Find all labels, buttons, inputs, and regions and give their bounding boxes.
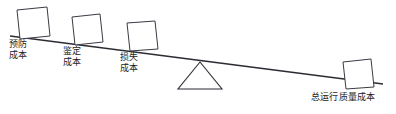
weight-box-appraisal	[72, 14, 103, 45]
weight-box-prevention	[17, 7, 50, 39]
label-total-operating-quality-cost: 总运行质量成本	[311, 92, 375, 103]
label-prevention-cost: 预防 成本	[9, 39, 27, 61]
triangular-fulcrum	[178, 62, 222, 89]
label-appraisal-cost: 鉴定 成本	[63, 46, 81, 68]
label-failure-cost-line1: 损失	[120, 52, 138, 63]
label-failure-cost: 损失 成本	[120, 52, 138, 74]
label-prevention-cost-line1: 预防	[9, 39, 27, 50]
label-appraisal-cost-line2: 成本	[63, 57, 81, 68]
weight-box-failure	[127, 21, 158, 51]
label-appraisal-cost-line1: 鉴定	[63, 46, 81, 57]
label-failure-cost-line2: 成本	[120, 63, 138, 74]
weight-box-total-cost	[343, 59, 374, 89]
quality-cost-lever-diagram: 预防 成本 鉴定 成本 损失 成本 总运行质量成本	[0, 0, 396, 114]
label-total-operating-quality-cost-line1: 总运行质量成本	[311, 92, 375, 103]
label-prevention-cost-line2: 成本	[9, 50, 27, 61]
